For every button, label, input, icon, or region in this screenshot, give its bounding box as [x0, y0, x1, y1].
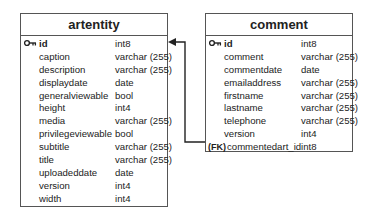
arrowhead-icon — [168, 38, 176, 46]
relationship-connector — [0, 0, 376, 214]
